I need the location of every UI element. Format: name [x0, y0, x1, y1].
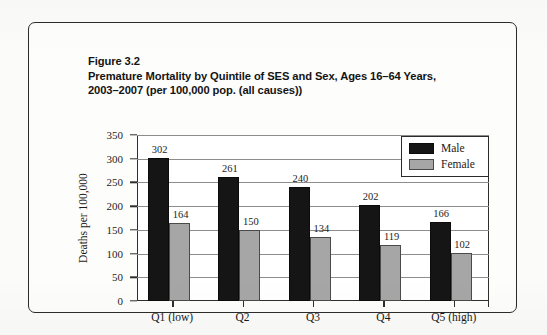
y-tick-label: 300: [107, 153, 124, 165]
bar-value-label: 164: [164, 209, 198, 220]
scanned-page: Figure 3.2 Premature Mortality by Quinti…: [0, 0, 547, 335]
bar-female: 119: [380, 245, 401, 301]
bar-value-label: 150: [234, 216, 268, 227]
bar-male: 261: [218, 177, 239, 301]
y-tick-label: 50: [112, 271, 123, 283]
bar-value-label: 240: [283, 173, 317, 184]
y-tick-mark: [130, 182, 137, 183]
y-tick-mark: [130, 277, 137, 278]
y-tick-mark: [130, 229, 137, 230]
y-tick-mark: [130, 205, 137, 206]
x-tick-label: Q5 (high): [409, 311, 499, 323]
caption-line-3: 2003–2007 (per 100,000 pop. (all causes)…: [88, 83, 518, 98]
caption-line-1: Figure 3.2: [88, 54, 518, 69]
y-tick-label: 100: [107, 248, 124, 260]
x-tick-mark: [454, 301, 455, 307]
chart-legend: Male Female: [401, 136, 489, 177]
bar-group: 261150: [207, 135, 277, 301]
bar-male: 240: [289, 187, 310, 301]
bar-male: 166: [430, 222, 451, 301]
y-tick-label: 350: [107, 129, 124, 141]
bar-value-label: 202: [354, 191, 388, 202]
legend-item-female: Female: [409, 158, 482, 170]
x-tick-mark: [172, 301, 173, 307]
bar-male: 202: [359, 205, 380, 301]
bar-value-label: 119: [375, 231, 409, 242]
bar-value-label: 134: [304, 223, 338, 234]
figure-frame: Figure 3.2 Premature Mortality by Quinti…: [28, 22, 517, 313]
legend-swatch-female-icon: [409, 159, 434, 170]
legend-label-male: Male: [441, 142, 465, 154]
y-tick-label: 250: [107, 176, 124, 188]
bar-value-label: 102: [445, 239, 479, 250]
x-tick-mark: [243, 301, 244, 307]
chart-plot-area: 302164261150240134202119166102 Q1 (low)Q…: [137, 135, 489, 301]
y-tick-label: 200: [107, 200, 124, 212]
legend-item-male: Male: [409, 142, 482, 154]
x-tick-mark: [383, 301, 384, 307]
y-tick-label: 150: [107, 224, 124, 236]
y-tick-mark: [130, 134, 137, 135]
x-tick-mark: [488, 301, 489, 307]
x-tick-mark: [313, 301, 314, 307]
bar-female: 102: [451, 253, 472, 301]
legend-label-female: Female: [441, 158, 475, 170]
y-tick-mark: [130, 300, 137, 301]
legend-swatch-male-icon: [409, 143, 434, 154]
y-tick-mark: [130, 158, 137, 159]
bar-male: 302: [148, 158, 169, 301]
bar-female: 134: [310, 237, 331, 301]
bar-value-label: 166: [424, 208, 458, 219]
bar-female: 150: [239, 230, 260, 301]
y-tick-label: 0: [118, 295, 124, 307]
bar-value-label: 302: [143, 144, 177, 155]
bar-group: 240134: [278, 135, 348, 301]
y-axis: 050100150200250300350: [29, 135, 137, 301]
bar-group: 302164: [137, 135, 207, 301]
y-tick-mark: [130, 253, 137, 254]
bar-female: 164: [169, 223, 190, 301]
bar-value-label: 261: [213, 163, 247, 174]
figure-caption: Figure 3.2 Premature Mortality by Quinti…: [88, 54, 518, 98]
caption-line-2: Premature Mortality by Quintile of SES a…: [88, 69, 518, 84]
